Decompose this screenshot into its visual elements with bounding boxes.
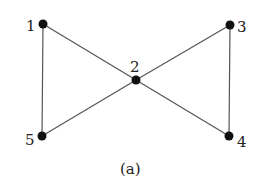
node-2 [132,76,141,85]
edge-1-5 [42,24,43,136]
edge-3-4 [229,25,230,136]
node-label-3: 3 [237,18,247,36]
node-1 [39,20,48,29]
edge-1-2 [43,24,136,80]
node-label-4: 4 [237,133,247,151]
figure-caption: (a) [120,160,141,178]
bowtie-graph: 1 2 3 4 5 (a) [0,0,255,192]
nodes [38,20,235,141]
node-4 [225,132,234,141]
edge-2-3 [136,25,230,80]
node-label-1: 1 [26,17,36,35]
node-label-5: 5 [25,131,35,149]
node-label-2: 2 [130,58,140,76]
edge-2-4 [136,80,229,136]
node-3 [226,21,235,30]
edge-5-2 [42,80,136,136]
node-5 [38,132,47,141]
